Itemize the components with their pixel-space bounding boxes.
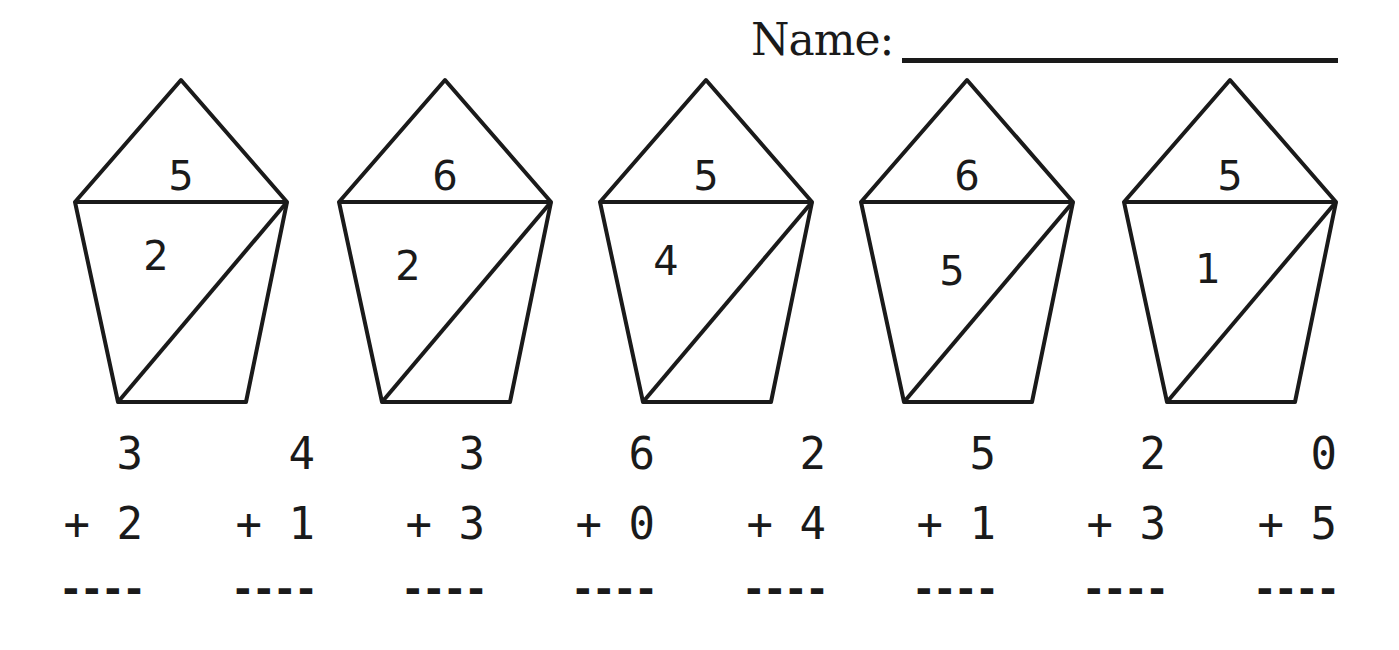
addend-b: + 3 bbox=[406, 498, 485, 549]
addend-b: + 1 bbox=[236, 498, 315, 549]
addend-a: 3 bbox=[459, 428, 486, 479]
answer-line[interactable]: ---- bbox=[1253, 566, 1337, 612]
pentagon-4 bbox=[861, 80, 1073, 402]
pentagon-3 bbox=[600, 80, 812, 402]
addend-a: 3 bbox=[117, 428, 144, 479]
pentagon-shapes: 5262546551 bbox=[0, 0, 1399, 420]
addend-b: + 2 bbox=[64, 498, 143, 549]
pentagon-top-number: 6 bbox=[954, 153, 979, 199]
pentagon-top-number: 6 bbox=[432, 153, 457, 199]
pentagon-middle-number: 5 bbox=[939, 248, 964, 294]
answer-line[interactable]: ---- bbox=[401, 566, 485, 612]
addend-b: + 4 bbox=[747, 498, 826, 549]
pentagon-top-number: 5 bbox=[693, 153, 718, 199]
pentagon-top-number: 5 bbox=[168, 153, 193, 199]
answer-line[interactable]: ---- bbox=[231, 566, 315, 612]
addend-a: 2 bbox=[800, 428, 827, 479]
pentagon-1 bbox=[75, 80, 287, 402]
answer-line[interactable]: ---- bbox=[59, 566, 143, 612]
answer-line[interactable]: ---- bbox=[912, 566, 996, 612]
addend-b: + 1 bbox=[917, 498, 996, 549]
addend-a: 0 bbox=[1311, 428, 1338, 479]
pentagon-middle-number: 2 bbox=[143, 233, 168, 279]
answer-line[interactable]: ---- bbox=[742, 566, 826, 612]
pentagon-2 bbox=[339, 80, 551, 402]
addend-a: 4 bbox=[289, 428, 316, 479]
addend-b: + 3 bbox=[1087, 498, 1166, 549]
pentagon-middle-number: 4 bbox=[653, 238, 678, 284]
answer-line[interactable]: ---- bbox=[571, 566, 655, 612]
addend-b: + 5 bbox=[1258, 498, 1337, 549]
pentagon-middle-number: 2 bbox=[395, 243, 420, 289]
pentagon-middle-number: 1 bbox=[1195, 246, 1220, 292]
addend-a: 2 bbox=[1140, 428, 1167, 479]
pentagon-5 bbox=[1124, 80, 1336, 402]
addend-a: 5 bbox=[970, 428, 997, 479]
addend-a: 6 bbox=[629, 428, 656, 479]
addend-b: + 0 bbox=[576, 498, 655, 549]
pentagon-top-number: 5 bbox=[1217, 153, 1242, 199]
answer-line[interactable]: ---- bbox=[1082, 566, 1166, 612]
